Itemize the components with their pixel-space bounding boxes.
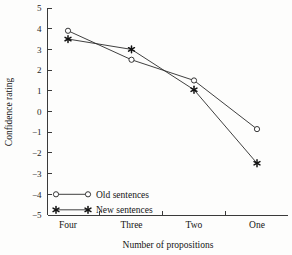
- y-tick-label: −2: [32, 148, 42, 158]
- x-category-label: Four: [59, 220, 78, 230]
- chart-figure: 543210−1−2−3−4−5 FourThreeTwoOne Old sen…: [0, 0, 292, 255]
- x-category-label: One: [249, 220, 265, 230]
- y-tick-label: −1: [32, 127, 42, 137]
- y-tick-label: 5: [37, 3, 42, 13]
- marker-open-circle: [254, 126, 259, 131]
- x-axis-title: Number of propositions: [123, 240, 214, 250]
- y-axis-ticks: [48, 8, 52, 215]
- chart-legend: Old sentencesNew sentences: [53, 190, 153, 216]
- y-tick-label: −3: [32, 169, 42, 179]
- y-tick-label: 0: [37, 107, 42, 117]
- y-tick-label: −5: [32, 210, 42, 220]
- series-line-new-sentences: [68, 39, 257, 163]
- y-tick-label: 1: [37, 86, 42, 96]
- data-series-layer: [65, 28, 260, 166]
- y-tick-label: 4: [37, 24, 42, 34]
- legend-label: Old sentences: [96, 190, 149, 200]
- y-axis-tick-labels: 543210−1−2−3−4−5: [32, 3, 42, 220]
- y-tick-label: 3: [37, 45, 42, 55]
- y-tick-label: −4: [32, 190, 42, 200]
- x-category-label: Two: [186, 220, 203, 230]
- marker-open-circle: [129, 57, 134, 62]
- legend-label: New sentences: [96, 205, 153, 215]
- legend-marker-open-circle: [85, 192, 90, 197]
- line-chart: 543210−1−2−3−4−5 FourThreeTwoOne Old sen…: [0, 0, 292, 255]
- series-line-old-sentences: [68, 31, 257, 129]
- marker-open-circle: [191, 78, 196, 83]
- legend-marker-open-circle: [53, 192, 58, 197]
- x-category-label: Three: [120, 220, 142, 230]
- marker-open-circle: [65, 28, 70, 33]
- y-tick-label: 2: [37, 65, 42, 75]
- y-axis-title: Confidence rating: [4, 78, 14, 147]
- x-axis-category-labels: FourThreeTwoOne: [59, 220, 265, 230]
